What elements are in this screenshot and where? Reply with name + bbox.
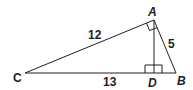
triangle-diagram: A B C D 12 5 13 (0, 0, 193, 90)
side-ab-length: 5 (168, 37, 175, 51)
side-cd-length: 13 (103, 75, 117, 89)
vertex-b-label: B (177, 74, 186, 88)
vertex-d-label: D (148, 76, 157, 90)
vertex-c-label: C (13, 71, 22, 85)
vertex-a-label: A (147, 5, 157, 19)
side-ac-length: 12 (88, 28, 102, 42)
